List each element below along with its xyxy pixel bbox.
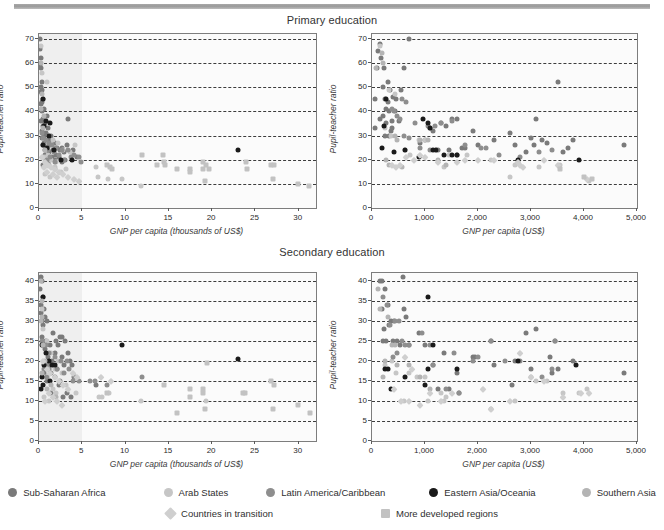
data-point-ssa (56, 383, 61, 388)
data-point-sa (380, 375, 385, 380)
data-point-arab (387, 87, 392, 92)
data-point-ssa (52, 351, 57, 356)
data-point-mdr (272, 383, 277, 388)
data-point-cit (422, 154, 428, 160)
y-tick-mark (35, 440, 38, 441)
data-point-ssa (560, 150, 565, 155)
legend-item-eao[interactable]: Eastern Asia/Oceania (429, 487, 535, 498)
data-point-arab (529, 375, 534, 380)
data-point-ssa (523, 150, 528, 155)
data-point-ssa (441, 351, 446, 356)
data-point-lac (497, 152, 502, 157)
data-point-ssa (38, 46, 43, 51)
data-point-eao (40, 295, 45, 300)
data-point-arab (48, 174, 53, 179)
data-point-cit (50, 394, 56, 400)
data-point-lac (93, 379, 98, 384)
data-point-arab (534, 379, 539, 384)
y-tick-mark (35, 86, 38, 87)
data-point-lac (62, 371, 67, 376)
data-point-ssa (69, 395, 74, 400)
data-point-cit (507, 398, 513, 404)
data-point-ssa (50, 331, 55, 336)
data-point-cit (41, 164, 47, 170)
data-point-lac (57, 379, 62, 384)
data-point-arab (377, 44, 382, 49)
data-point-ssa (41, 123, 46, 128)
data-point-lac (391, 355, 396, 360)
data-point-ssa (529, 367, 534, 372)
gridline-y-25 (39, 341, 316, 342)
data-point-arab (50, 387, 55, 392)
x-tick-mark (211, 208, 212, 211)
data-point-sa (385, 315, 390, 320)
data-point-cit (541, 156, 547, 162)
data-point-lac (67, 367, 72, 372)
data-point-ssa (40, 99, 45, 104)
y-tick-label: 60 (12, 58, 34, 67)
data-point-sa (40, 126, 45, 131)
data-point-ssa (382, 65, 387, 70)
data-point-lac (384, 303, 389, 308)
data-point-ssa (45, 145, 50, 150)
y-tick-label: 5 (12, 416, 34, 425)
data-point-eao (69, 157, 74, 162)
data-point-lac (53, 355, 58, 360)
data-point-sa (54, 395, 59, 400)
legend-item-mdr[interactable]: More developed regions (381, 508, 498, 519)
legend-label: Sub-Saharan Africa (23, 487, 105, 498)
data-point-arab (425, 399, 430, 404)
data-point-sa (383, 157, 388, 162)
data-point-cit (65, 173, 71, 179)
data-point-ssa (42, 347, 47, 352)
y-tick-label: 0 (345, 436, 367, 445)
data-point-arab (507, 174, 512, 179)
gridline-y-15 (39, 381, 316, 382)
data-point-eao (40, 97, 45, 102)
x-tick-label: 25 (250, 213, 259, 222)
data-point-sa (390, 343, 395, 348)
data-point-lac (395, 351, 400, 356)
data-point-arab (544, 379, 549, 384)
data-point-mdr (270, 177, 275, 182)
data-point-ssa (388, 319, 393, 324)
data-point-lac (49, 143, 54, 148)
x-tick-mark (477, 441, 478, 444)
data-point-lac (388, 323, 393, 328)
data-point-ssa (62, 157, 67, 162)
legend-item-cit[interactable]: Countries in transition (166, 508, 273, 519)
data-point-mdr (203, 407, 208, 412)
data-point-arab (383, 363, 388, 368)
data-point-cit (51, 374, 57, 380)
legend-item-ssa[interactable]: Sub-Saharan Africa (8, 487, 105, 498)
data-point-arab (39, 307, 44, 312)
legend-item-lac[interactable]: Latin America/Caribbean (266, 487, 385, 498)
legend-item-sa[interactable]: Southern Asia (582, 487, 656, 498)
data-point-ssa (49, 359, 54, 364)
x-tick-label: 3,000 (520, 213, 540, 222)
data-point-cit (54, 173, 60, 179)
data-point-ssa (378, 41, 383, 46)
y-tick-mark (368, 320, 371, 321)
legend-swatch-circle-icon (582, 488, 591, 497)
y-tick-mark (368, 110, 371, 111)
data-point-lac (43, 343, 48, 348)
y-tick-mark (35, 62, 38, 63)
x-tick-mark (636, 208, 637, 211)
legend-item-arab[interactable]: Arab States (164, 487, 229, 498)
data-point-mdr (244, 167, 249, 172)
data-point-arab (50, 138, 55, 143)
data-point-ssa (404, 315, 409, 320)
data-point-ssa (393, 97, 398, 102)
data-point-eao (43, 119, 48, 124)
data-point-arab (584, 387, 589, 392)
data-point-arab (441, 164, 446, 169)
data-point-ssa (566, 145, 571, 150)
y-tick-mark (35, 400, 38, 401)
data-point-ssa (38, 85, 43, 90)
data-point-cit (44, 169, 50, 175)
data-point-cit (56, 169, 62, 175)
data-point-mdr (107, 164, 112, 169)
data-point-ssa (39, 303, 44, 308)
x-tick-mark (81, 208, 82, 211)
